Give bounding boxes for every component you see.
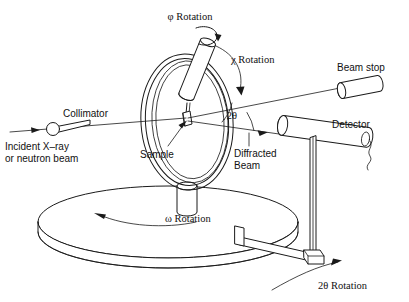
incident-beam-line: [10, 118, 186, 133]
collimator-cone: [47, 120, 91, 136]
sample-leader-line: [168, 121, 187, 147]
transmitted-beam-line: [188, 88, 340, 118]
detector-label: Detector: [332, 119, 370, 130]
chi-circle-pedestal: [177, 182, 197, 216]
diagram-canvas: φ Rotation χ Rotation Beam stop Detector…: [0, 0, 409, 302]
beam-stop-cylinder: [336, 75, 384, 99]
omega-rotation-label: ω Rotation: [165, 213, 211, 224]
beam-stop-label: Beam stop: [337, 62, 385, 73]
diffracted-beam-label-line1: Diffracted: [234, 148, 277, 159]
detector-vertical-post: [310, 136, 316, 256]
chi-rotation-label: χ Rotation: [230, 54, 275, 65]
phi-goniometer-head: [178, 36, 217, 114]
diffractometer-diagram: φ Rotation χ Rotation Beam stop Detector…: [0, 0, 409, 302]
omega-rotation-table: [38, 186, 298, 268]
two-theta-angle-label: 2θ: [227, 110, 237, 121]
phi-rotation-label: φ Rotation: [168, 11, 214, 22]
incident-beam-label-line1: Incident X–ray: [5, 141, 69, 152]
incident-beam-label-line2: or neutron beam: [5, 153, 78, 164]
diffracted-beam-label-line2: Beam: [234, 160, 260, 171]
two-theta-rotation-label: 2θ Rotation: [318, 280, 368, 291]
collimator-label: Collimator: [63, 108, 109, 119]
sample-label: Sample: [140, 149, 174, 160]
